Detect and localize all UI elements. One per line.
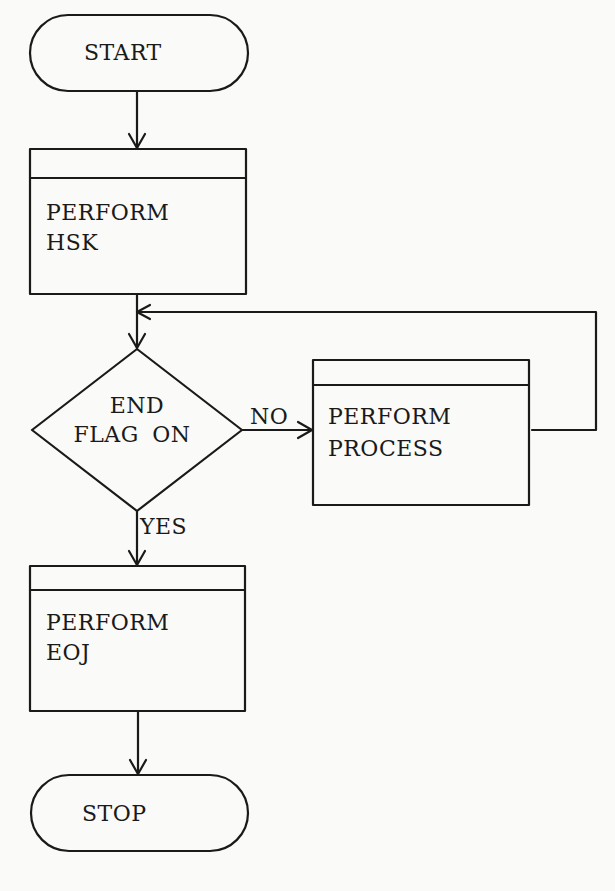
process-label-line2: PROCESS (328, 434, 444, 464)
eoj-label-line2: EOJ (46, 638, 90, 668)
decision-label-line1: END (57, 391, 217, 421)
hsk-label-line1: PERFORM (46, 198, 169, 228)
process-label-line1: PERFORM (328, 402, 451, 432)
decision-label-line2: FLAG ON (52, 420, 212, 450)
yes-edge-label: YES (140, 512, 187, 542)
no-edge-label: NO (250, 402, 288, 432)
stop-label: STOP (82, 799, 147, 829)
start-label: START (84, 38, 162, 68)
process-shape (313, 360, 529, 505)
hsk-label-line2: HSK (46, 228, 98, 258)
eoj-label-line1: PERFORM (46, 608, 169, 638)
